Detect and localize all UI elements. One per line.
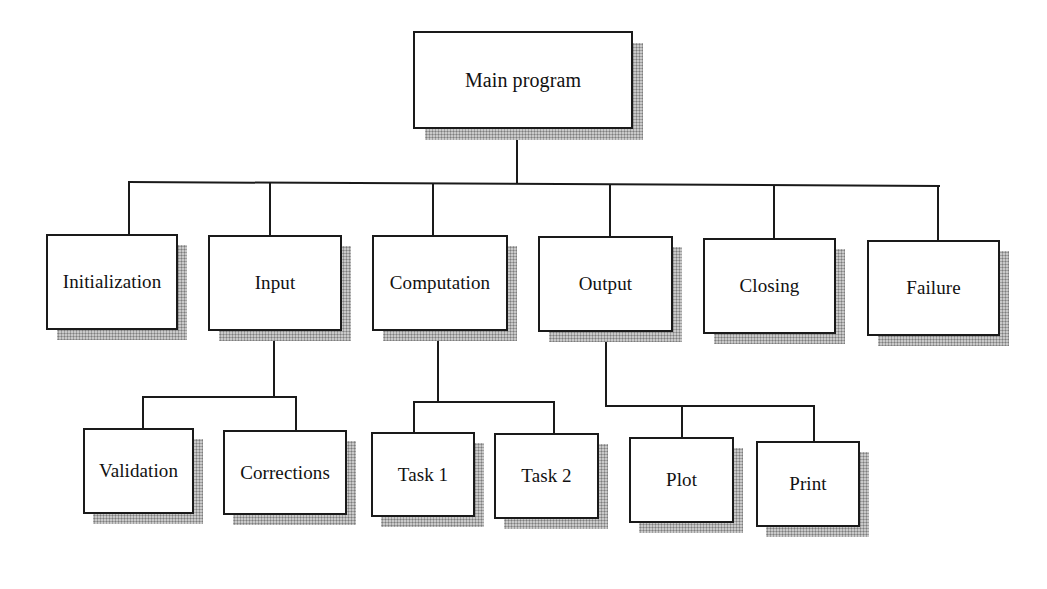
node-label: Initialization bbox=[63, 271, 161, 293]
hierarchy-diagram: Main program Initialization Input Comput… bbox=[0, 0, 1047, 589]
node-label: Computation bbox=[390, 272, 490, 294]
connector-plot bbox=[681, 405, 683, 438]
node-label: Print bbox=[789, 473, 826, 495]
node-label: Failure bbox=[906, 277, 961, 299]
node-print: Print bbox=[756, 441, 860, 527]
node-label: Output bbox=[579, 273, 632, 295]
node-label: Validation bbox=[99, 460, 178, 482]
node-label: Input bbox=[255, 272, 296, 294]
connector-computation-down bbox=[437, 331, 439, 403]
connector-validation bbox=[142, 396, 144, 429]
connector-task1 bbox=[413, 401, 415, 433]
connector-output bbox=[609, 184, 611, 237]
node-label: Main program bbox=[465, 69, 581, 92]
node-validation: Validation bbox=[83, 428, 194, 514]
connector-task2 bbox=[553, 401, 555, 434]
node-plot: Plot bbox=[629, 437, 734, 523]
node-label: Corrections bbox=[240, 462, 330, 484]
node-task2: Task 2 bbox=[494, 433, 599, 519]
connector-failure bbox=[937, 186, 939, 241]
connector-output-down bbox=[605, 331, 607, 407]
node-failure: Failure bbox=[867, 240, 1000, 336]
node-computation: Computation bbox=[372, 235, 508, 331]
connector-output-bus bbox=[605, 405, 815, 407]
node-label: Task 1 bbox=[398, 464, 448, 486]
node-closing: Closing bbox=[703, 238, 836, 334]
node-task1: Task 1 bbox=[371, 432, 475, 517]
connector-input-bus bbox=[142, 396, 297, 398]
node-main-program: Main program bbox=[413, 31, 633, 129]
node-input: Input bbox=[208, 235, 342, 331]
node-initialization: Initialization bbox=[46, 234, 178, 330]
connector-closing bbox=[773, 185, 775, 239]
connector-corrections bbox=[295, 396, 297, 431]
node-corrections: Corrections bbox=[223, 430, 347, 515]
connector-print bbox=[813, 405, 815, 442]
connector-computation bbox=[432, 183, 434, 236]
connector-level1-bus bbox=[128, 181, 940, 187]
node-output: Output bbox=[538, 236, 673, 332]
connector-initialization bbox=[128, 181, 130, 235]
node-label: Closing bbox=[740, 275, 800, 297]
connector-computation-bus bbox=[413, 401, 555, 403]
node-label: Plot bbox=[666, 469, 697, 491]
connector-input bbox=[269, 182, 271, 236]
node-label: Task 2 bbox=[521, 465, 571, 487]
